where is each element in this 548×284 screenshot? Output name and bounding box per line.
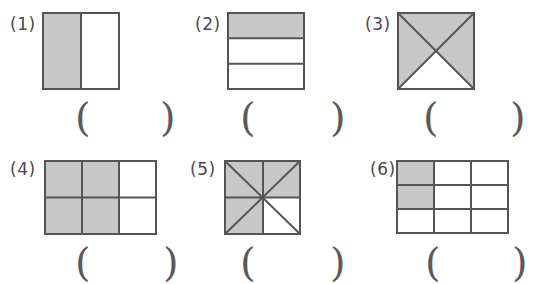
figure-square-diagonals-four-triangles [397,12,475,90]
problem-4-label: (4) [10,159,36,179]
problem-4-answer-open-paren: ( [75,242,91,282]
problem-2-answer-open-paren: ( [240,97,256,137]
problem-1-answer-open-paren: ( [75,97,91,137]
problem-3-label: (3) [365,14,391,34]
problem-3-answer-close-paren: ) [510,97,526,137]
figure-rectangle-grid-3x3 [396,160,510,236]
problem-1-answer-close-paren: ) [160,97,176,137]
problem-5-label: (5) [190,159,216,179]
worksheet-canvas: (1) ( ) (2) ( ) [0,0,548,284]
problem-2-label: (2) [195,14,221,34]
figure-square-thirds-top-shaded [227,12,305,90]
problem-6-answer-close-paren: ) [512,242,528,282]
problem-3-answer-open-paren: ( [423,97,439,137]
figure-square-eight-triangles [224,160,302,236]
problem-6-answer-open-paren: ( [425,242,441,282]
problem-5-answer-close-paren: ) [330,242,346,282]
problem-5-answer-open-paren: ( [240,242,256,282]
problem-2-answer-close-paren: ) [330,97,346,137]
figure-rectangle-grid-3x2 [44,160,157,236]
problem-4-answer-close-paren: ) [163,242,179,282]
problem-6-label: (6) [370,159,396,179]
problem-1-label: (1) [10,14,36,34]
figure-square-halves-left-shaded [42,12,120,90]
